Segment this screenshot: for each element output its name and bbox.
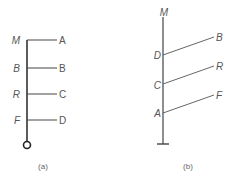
diagram-a: M B R F A B C D (a) [12,35,67,171]
b-label-top: M [160,7,169,18]
diagram-b: M D C A B R F (b) [153,7,223,171]
a-label-left-1: B [13,63,20,74]
b-caption: (b) [183,162,193,171]
a-label-left-0: M [12,35,21,46]
a-label-right-0: A [59,35,66,46]
b-label-right-2: F [216,90,223,101]
b-label-left-1: C [154,80,162,91]
a-label-right-2: C [59,89,66,100]
a-label-right-3: D [59,115,66,126]
b-branch-c-r [163,66,214,84]
a-label-left-3: F [14,115,21,126]
a-label-left-2: R [13,89,20,100]
b-branch-a-f [163,95,214,113]
a-caption: (a) [38,162,48,171]
b-label-right-1: R [216,61,223,72]
b-label-left-2: A [153,108,161,119]
b-label-left-0: D [154,50,161,61]
a-label-right-1: B [59,63,66,74]
a-terminal-circle [24,142,31,149]
diagram-canvas: M B R F A B C D (a) M D C A B R F (b) [0,0,243,183]
b-branch-d-b [163,37,214,55]
b-label-right-0: B [216,32,223,43]
